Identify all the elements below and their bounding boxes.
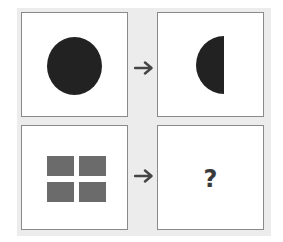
- right-arrow-icon: [134, 61, 154, 75]
- square-shape-top-right: [79, 156, 106, 176]
- panel-row2-source: [21, 125, 128, 230]
- panel-row1-source: [21, 12, 128, 117]
- square-shape-bottom-right: [79, 182, 106, 202]
- panel-row2-result: ?: [157, 125, 264, 230]
- square-shape-bottom-left: [47, 182, 74, 202]
- filled-circle-shape: [47, 37, 102, 95]
- left-half-circle-shape: [196, 36, 224, 94]
- panel-row1-result: [157, 12, 264, 117]
- question-mark: ?: [158, 126, 263, 229]
- right-arrow-icon: [134, 169, 154, 183]
- analogy-puzzle: ?: [17, 8, 271, 236]
- square-shape-top-left: [47, 156, 74, 176]
